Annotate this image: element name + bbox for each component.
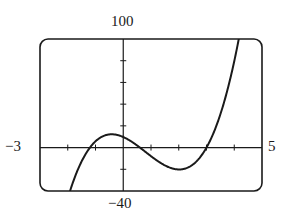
axes [40,39,262,191]
xmin-label: −3 [5,139,21,154]
axis-ticks [68,61,235,170]
xmax-label: 5 [268,139,276,154]
viewing-window-frame [40,39,262,191]
chart-canvas [0,0,281,214]
ymax-label: 100 [111,14,134,29]
ymin-label: −40 [108,196,131,211]
function-curve [62,2,245,214]
